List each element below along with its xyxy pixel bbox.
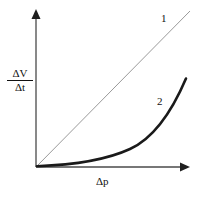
y-axis-label-denominator: Δt [7,81,33,93]
curve-2-label: 2 [157,96,163,107]
y-axis-arrowhead [32,9,41,19]
x-axis-label: Δp [96,176,109,187]
curve-1-line [37,11,190,166]
curve-2-path [37,79,186,167]
y-axis-label: ΔV Δt [7,68,33,93]
y-axis-label-numerator: ΔV [7,68,33,81]
curve-1-label: 1 [161,13,167,24]
x-axis-arrowhead [180,163,190,172]
plot-svg [0,0,206,198]
figure-container: ΔV Δt Δp 1 2 [0,0,206,198]
